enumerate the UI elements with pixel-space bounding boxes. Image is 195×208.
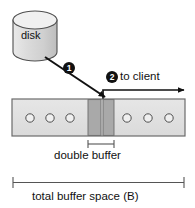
total-buffer-space-label: total buffer space (B) <box>32 191 139 203</box>
double-buffer-segments <box>88 100 114 136</box>
double-buffering-diagram: disk 1 2 to client double buffer total b… <box>0 0 195 208</box>
step-1-badge: 1 <box>63 62 75 74</box>
total-buffer-dimension <box>13 177 184 188</box>
double-buffer-label: double buffer <box>54 150 121 162</box>
double-buffer-dimension <box>88 140 114 148</box>
buffer-slots-right <box>123 114 173 122</box>
total-buffer-bar <box>12 99 185 136</box>
step-2-badge: 2 <box>106 71 118 83</box>
to-client-label: to client <box>120 71 160 83</box>
buffer-slots-left <box>26 114 74 122</box>
disk-label: disk <box>21 30 41 41</box>
step-1-arrow <box>45 57 105 97</box>
